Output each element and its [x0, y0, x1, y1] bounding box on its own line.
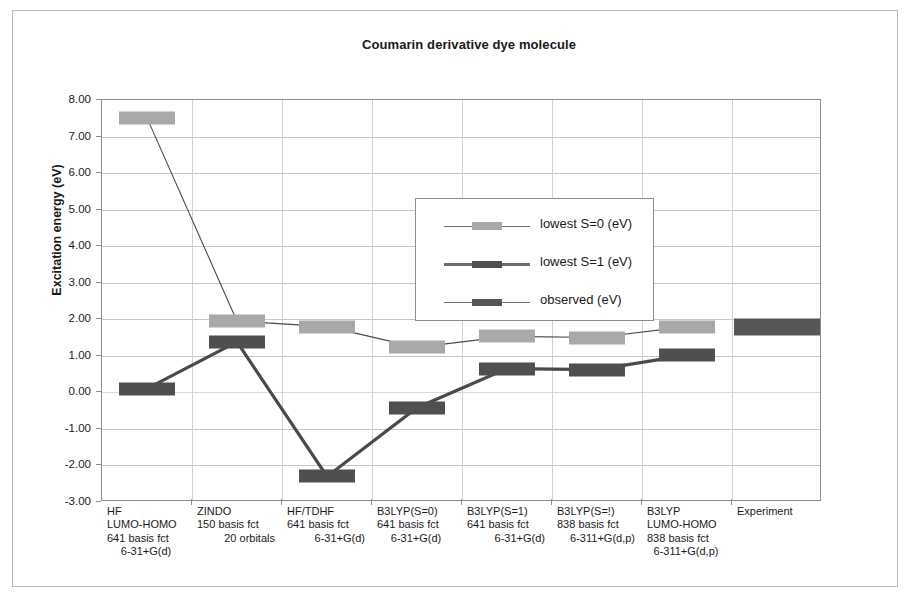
x-category-line: 6-311+G(d,p) [551, 532, 641, 545]
legend-item[interactable]: observed (eV) [416, 287, 653, 319]
plot-area: lowest S=0 (eV)lowest S=1 (eV)observed (… [101, 99, 821, 501]
legend-swatch [472, 299, 502, 306]
x-axis-labels: HFLUMO-HOMO641 basis fct6-31+G(d)ZINDO15… [101, 505, 821, 600]
x-category-line: 641 basis fct [101, 532, 191, 545]
legend-label: observed (eV) [540, 292, 622, 307]
legend-swatch [472, 222, 502, 230]
x-category-line: Experiment [731, 505, 821, 518]
x-tick-mark [641, 499, 642, 505]
x-category-label: B3LYP(S=0)641 basis fct6-31+G(d) [371, 505, 461, 545]
x-category-label: B3LYP(S=1)641 basis fct6-31+G(d) [461, 505, 551, 545]
x-category-label: ZINDO150 basis fct20 orbitals [191, 505, 281, 545]
data-marker [479, 330, 535, 343]
data-marker [569, 331, 625, 344]
data-marker [479, 362, 535, 375]
x-category-line: B3LYP(S=!) [551, 505, 641, 518]
y-tick-label: -3.00 [37, 495, 91, 507]
x-category-line: 6-311+G(d,p) [641, 545, 731, 558]
legend-item[interactable]: lowest S=1 (eV) [416, 249, 653, 281]
data-marker [659, 320, 715, 333]
x-category-line: HF [101, 505, 191, 518]
x-category-line: 6-31+G(d) [101, 545, 191, 558]
x-category-line: LUMO-HOMO [641, 518, 731, 531]
legend-label: lowest S=0 (eV) [540, 216, 632, 231]
x-category-line: 838 basis fct [641, 532, 731, 545]
legend-swatch [472, 261, 502, 268]
legend-item[interactable]: lowest S=0 (eV) [416, 211, 653, 243]
x-category-line: 641 basis fct [461, 518, 551, 531]
legend-label: lowest S=1 (eV) [540, 254, 632, 269]
y-tick-mark [96, 318, 101, 319]
y-tick-mark [96, 245, 101, 246]
data-marker [569, 363, 625, 376]
x-category-label: B3LYP(S=!)838 basis fct6-311+G(d,p) [551, 505, 641, 545]
chart-frame: Coumarin derivative dye molecule Excitat… [12, 10, 898, 587]
x-tick-mark [731, 499, 732, 505]
x-category-line: 150 basis fct [191, 518, 281, 531]
x-category-line: 6-31+G(d) [371, 532, 461, 545]
x-category-line: 641 basis fct [281, 518, 371, 531]
x-category-line: HF/TDHF [281, 505, 371, 518]
x-tick-mark [371, 499, 372, 505]
y-tick-mark [96, 209, 101, 210]
y-tick-label: 8.00 [37, 93, 91, 105]
y-tick-mark [96, 99, 101, 100]
x-tick-mark [281, 499, 282, 505]
y-tick-mark [96, 501, 101, 502]
y-tick-label: 1.00 [37, 349, 91, 361]
x-category-label: B3LYPLUMO-HOMO838 basis fct6-311+G(d,p) [641, 505, 731, 559]
x-category-label: Experiment [731, 505, 821, 518]
x-category-line: ZINDO [191, 505, 281, 518]
y-tick-label: 5.00 [37, 203, 91, 215]
x-tick-mark [191, 499, 192, 505]
chart-legend: lowest S=0 (eV)lowest S=1 (eV)observed (… [415, 198, 654, 321]
y-tick-mark [96, 136, 101, 137]
data-marker [299, 320, 355, 333]
x-category-line: B3LYP(S=0) [371, 505, 461, 518]
x-category-line: 20 orbitals [191, 532, 281, 545]
x-category-label: HF/TDHF641 basis fct6-31+G(d) [281, 505, 371, 545]
data-marker [389, 401, 445, 414]
y-tick-mark [96, 172, 101, 173]
x-category-line: 6-31+G(d) [461, 532, 551, 545]
data-marker [119, 111, 175, 124]
y-tick-mark [96, 355, 101, 356]
data-marker [209, 335, 265, 348]
x-category-label: HFLUMO-HOMO641 basis fct6-31+G(d) [101, 505, 191, 559]
x-category-line: B3LYP(S=1) [461, 505, 551, 518]
data-marker [209, 315, 265, 328]
y-tick-mark [96, 464, 101, 465]
y-tick-label: 7.00 [37, 130, 91, 142]
x-category-line: B3LYP [641, 505, 731, 518]
x-category-line: LUMO-HOMO [101, 518, 191, 531]
y-tick-label: 3.00 [37, 276, 91, 288]
y-tick-label: -1.00 [37, 422, 91, 434]
y-tick-label: 6.00 [37, 166, 91, 178]
x-category-line: 6-31+G(d) [281, 532, 371, 545]
y-tick-label: 4.00 [37, 239, 91, 251]
y-tick-label: 2.00 [37, 312, 91, 324]
data-marker [659, 349, 715, 362]
x-category-line: 838 basis fct [551, 518, 641, 531]
y-tick-mark [96, 282, 101, 283]
y-tick-label: -2.00 [37, 458, 91, 470]
y-tick-mark [96, 428, 101, 429]
x-tick-mark [461, 499, 462, 505]
data-marker [389, 341, 445, 354]
chart-title: Coumarin derivative dye molecule [13, 37, 912, 52]
y-tick-label: 0.00 [37, 385, 91, 397]
x-tick-mark [551, 499, 552, 505]
data-marker [734, 319, 820, 336]
data-marker [119, 382, 175, 395]
data-marker [299, 470, 355, 483]
y-tick-mark [96, 391, 101, 392]
x-category-line: 641 basis fct [371, 518, 461, 531]
